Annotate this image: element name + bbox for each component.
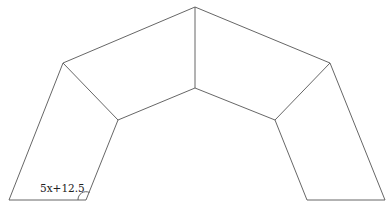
inner-edge — [86, 88, 307, 200]
arch-diagram: 5x+12.5 — [0, 0, 392, 212]
outer-edge — [9, 7, 385, 200]
divider-left — [63, 63, 118, 120]
divider-right — [275, 63, 330, 120]
angle-label: 5x+12.5 — [40, 182, 85, 194]
